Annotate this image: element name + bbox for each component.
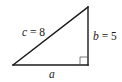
hypotenuse-eq: = [27,26,39,38]
vertical-leg-label: b = 5 [93,30,117,42]
right-triangle-diagram: c = 8 b = 5 a [0,0,122,82]
right-angle-marker [80,57,88,65]
hypotenuse-label: c = 8 [22,26,45,38]
horizontal-leg-var: a [49,68,55,80]
vertical-leg-eq: = [99,30,111,42]
vertical-leg-value: 5 [111,30,117,42]
hypotenuse-value: 8 [39,26,45,38]
horizontal-leg-label: a [49,68,55,80]
